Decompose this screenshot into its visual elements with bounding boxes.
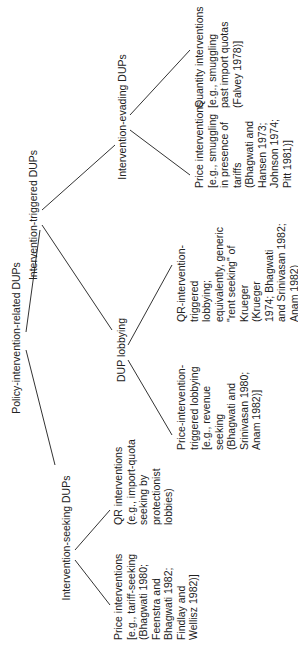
diagram-canvas: Policy-intervention-related DUPs Interve… bbox=[0, 0, 298, 650]
edge-lobbying-price bbox=[128, 360, 172, 435]
leaf-lobbying-price: Price-intervention- triggered lobbying [… bbox=[175, 365, 263, 450]
leaf-seeking-price: Price interventions [e.g., tariff-seekin… bbox=[112, 554, 200, 640]
edge-lobbying-qr bbox=[128, 265, 172, 345]
leaf-evading-quantity: Quantity interventions [e.g., smuggling … bbox=[193, 6, 243, 108]
edge-seeking-qr bbox=[75, 510, 110, 550]
edge-triggered-evading bbox=[42, 145, 115, 210]
intervention-evading-node: Intervention-evading DUPs bbox=[116, 54, 129, 179]
edge-root-seeking bbox=[26, 350, 55, 465]
leaf-evading-price: Price interventions [e.g., smuggling in … bbox=[193, 102, 293, 188]
edge-evading-price bbox=[130, 130, 190, 175]
leaf-lobbying-qr: QR-intervention- triggered lobbying; equ… bbox=[175, 223, 298, 322]
edge-evading-quantity bbox=[130, 50, 190, 115]
dup-lobbying-node: DUP lobbying bbox=[115, 318, 128, 382]
connector-lines bbox=[0, 0, 298, 650]
root-node: Policy-intervention-related DUPs bbox=[10, 262, 23, 414]
edge-triggered-lobbying bbox=[42, 225, 112, 330]
edge-seeking-price bbox=[75, 560, 110, 605]
intervention-seeking-node: Intervention-seeking DUPs bbox=[60, 476, 73, 601]
leaf-seeking-qr: QR interventions (e.g., import-quota see… bbox=[112, 439, 175, 525]
intervention-triggered-node: Intervention-triggered DUPs bbox=[27, 150, 40, 280]
